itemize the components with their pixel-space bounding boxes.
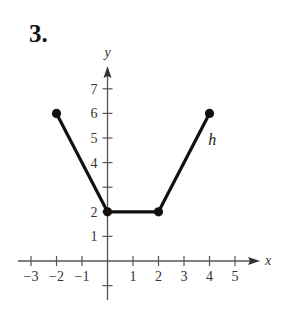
y-tick-label: 2	[91, 205, 98, 220]
x-tick-label: 3	[181, 269, 188, 284]
x-tick-label: 2	[155, 269, 162, 284]
function-label: h	[208, 131, 216, 148]
data-point	[103, 207, 112, 216]
data-point	[154, 207, 163, 216]
y-axis-label: y	[103, 45, 112, 60]
x-tick-label: 1	[130, 269, 137, 284]
x-tick-label: 4	[206, 269, 213, 284]
x-tick-label: −2	[49, 269, 64, 284]
x-tick-label: −3	[24, 269, 39, 284]
function-h-line	[57, 113, 210, 211]
x-tick-label: 5	[232, 269, 239, 284]
y-tick-label: 4	[91, 156, 98, 171]
y-tick-label: 6	[91, 106, 98, 121]
x-tick-label: −1	[75, 269, 90, 284]
y-tick-label: 7	[91, 82, 98, 97]
y-tick-label: 1	[91, 229, 98, 244]
data-point	[205, 109, 214, 118]
y-tick-label: 5	[91, 131, 98, 146]
x-axis-label: x	[264, 253, 272, 268]
function-graph: xy−3−2−112345124567h	[0, 0, 293, 311]
data-point	[52, 109, 61, 118]
